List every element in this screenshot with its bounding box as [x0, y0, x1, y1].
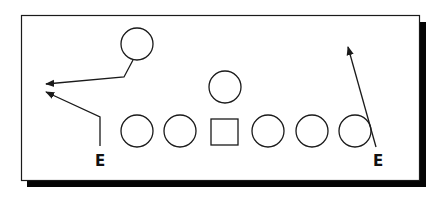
end-right-label: E: [373, 152, 383, 170]
frame: [22, 16, 420, 181]
play-diagram: E E: [0, 0, 443, 198]
end-left-label: E: [95, 152, 105, 170]
